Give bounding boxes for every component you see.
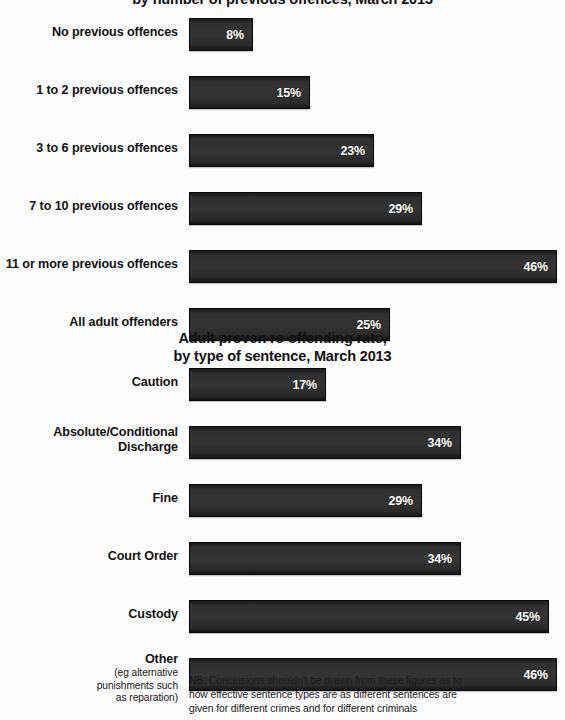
chart-1-bar-track-1-to-2: 15% xyxy=(189,76,310,110)
chart-1-label-no-previous-offences: No previous offences xyxy=(0,25,178,40)
chart-2-bar-court-order: 34% xyxy=(189,542,461,575)
chart-2-value-fine: 29% xyxy=(389,494,414,508)
chart-1-value-7-to-10: 29% xyxy=(389,202,414,216)
chart-1-label-1-to-2: 1 to 2 previous offences xyxy=(0,83,178,98)
chart-1-bar-3-to-6: 23% xyxy=(189,134,374,167)
chart-1-bar-track-no-previous-offences: 8% xyxy=(189,18,253,52)
chart-2-label-other-sub-line-3: as reparation) xyxy=(0,692,178,705)
chart-2-footnote-line-3: given for different crimes and for diffe… xyxy=(189,702,534,716)
chart-2-label-other-sub-line-1: (eg alternative xyxy=(0,667,178,680)
chart-2-label-absolute-conditional-discharge-line-1: Absolute/Conditional xyxy=(53,425,178,439)
chart-2-label-absolute-conditional-discharge-line-2: Discharge xyxy=(118,440,178,454)
chart-2-bar-custody: 45% xyxy=(189,600,549,633)
chart-1-value-11-or-more: 46% xyxy=(524,260,549,274)
chart-2-label-caution: Caution xyxy=(0,375,178,390)
chart-1-row-3-to-6: 3 to 6 previous offences 23% xyxy=(0,132,565,190)
chart-1-value-3-to-6: 23% xyxy=(341,144,366,158)
chart-2-row-absolute-conditional-discharge: Absolute/Conditional Discharge 34% xyxy=(0,424,565,482)
chart-2-label-other-sub-line-2: punishments such xyxy=(0,680,178,693)
chart-2-value-court-order: 34% xyxy=(428,552,453,566)
chart-2: Caution 17% Absolute/Conditional Dischar… xyxy=(0,366,565,714)
chart-2-bar-caution: 17% xyxy=(189,368,326,401)
chart-2-label-court-order: Court Order xyxy=(0,549,178,564)
chart-1-row-11-or-more: 11 or more previous offences 46% xyxy=(0,248,565,306)
chart-2-value-custody: 45% xyxy=(516,610,541,624)
chart-2-footnote: NB: Conclusions shouldn't be drawn from … xyxy=(189,674,534,717)
chart-1-bar-11-or-more: 46% xyxy=(189,250,557,283)
chart-1-row-no-previous-offences: No previous offences 8% xyxy=(0,16,565,74)
chart-2-bar-fine: 29% xyxy=(189,484,422,517)
chart-1-bar-1-to-2: 15% xyxy=(189,76,310,109)
chart-2-footnote-line-2: how effective sentence types are as diff… xyxy=(189,688,534,702)
chart-2-row-fine: Fine 29% xyxy=(0,482,565,540)
chart-2-row-custody: Custody 45% xyxy=(0,598,565,656)
chart-2-title: Adult proven re-offending rate, by type … xyxy=(0,329,565,365)
chart-1-bar-7-to-10: 29% xyxy=(189,192,422,225)
chart-2-value-caution: 17% xyxy=(293,378,318,392)
chart-1: No previous offences 8% 1 to 2 previous … xyxy=(0,16,565,364)
chart-1-bar-track-7-to-10: 29% xyxy=(189,192,422,226)
chart-2-row-caution: Caution 17% xyxy=(0,366,565,424)
chart-2-bar-track-absolute-conditional-discharge: 34% xyxy=(189,426,461,460)
chart-1-bar-track-3-to-6: 23% xyxy=(189,134,374,168)
chart-1-row-7-to-10: 7 to 10 previous offences 29% xyxy=(0,190,565,248)
chart-1-bar-no-previous-offences: 8% xyxy=(189,18,253,51)
chart-1-row-1-to-2: 1 to 2 previous offences 15% xyxy=(0,74,565,132)
chart-1-label-all-adult-offenders: All adult offenders xyxy=(0,315,178,330)
chart-2-bar-absolute-conditional-discharge: 34% xyxy=(189,426,461,459)
chart-2-title-line-1: Adult proven re-offending rate, xyxy=(0,329,565,347)
chart-2-label-other: Other (eg alternative punishments such a… xyxy=(0,652,178,705)
chart-1-value-no-previous-offences: 8% xyxy=(226,28,244,42)
chart-1-label-3-to-6: 3 to 6 previous offences xyxy=(0,141,178,156)
chart-1-title-text: by number of previous offences, March 20… xyxy=(132,0,433,7)
chart-2-label-absolute-conditional-discharge: Absolute/Conditional Discharge xyxy=(0,425,178,455)
chart-2-label-fine: Fine xyxy=(0,491,178,506)
chart-1-bar-track-11-or-more: 46% xyxy=(189,250,557,284)
chart-1-title: by number of previous offences, March 20… xyxy=(0,0,565,8)
chart-1-label-7-to-10: 7 to 10 previous offences xyxy=(0,199,178,214)
chart-1-label-11-or-more: 11 or more previous offences xyxy=(0,257,178,272)
infographic-page: by number of previous offences, March 20… xyxy=(0,0,565,720)
chart-2-label-other-main: Other xyxy=(145,652,178,666)
chart-2-footnote-line-1: NB: Conclusions shouldn't be drawn from … xyxy=(189,674,534,688)
chart-2-bar-track-custody: 45% xyxy=(189,600,549,634)
chart-2-row-court-order: Court Order 34% xyxy=(0,540,565,598)
chart-2-bar-track-court-order: 34% xyxy=(189,542,461,576)
chart-2-bar-track-fine: 29% xyxy=(189,484,422,518)
chart-2-label-custody: Custody xyxy=(0,607,178,622)
chart-2-title-line-2: by type of sentence, March 2013 xyxy=(0,347,565,365)
chart-2-bar-track-caution: 17% xyxy=(189,368,326,402)
chart-1-value-1-to-2: 15% xyxy=(277,86,302,100)
chart-2-value-absolute-conditional-discharge: 34% xyxy=(428,436,453,450)
